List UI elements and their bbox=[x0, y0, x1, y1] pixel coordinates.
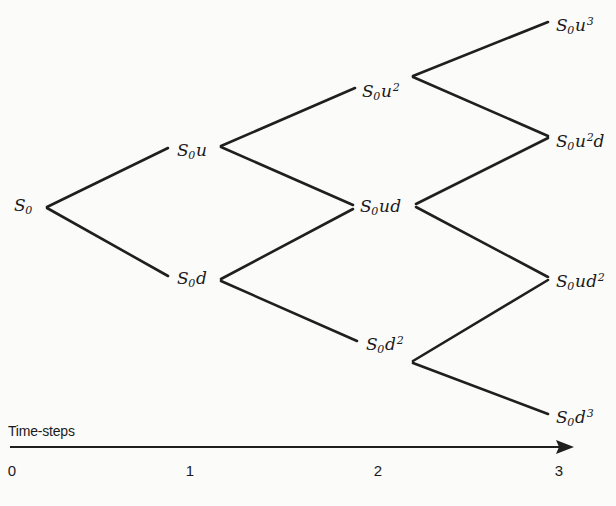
tree-node-label-n0: S0 bbox=[14, 197, 33, 214]
tree-node-label-n3ddd: S0d3 bbox=[556, 409, 593, 426]
tree-edge-n2uu-to-n3uuu bbox=[413, 22, 548, 76]
axis-tick-label-2: 2 bbox=[366, 462, 390, 479]
tree-edge-n1d-to-n2ud bbox=[221, 209, 353, 279]
tree-node-label-n2dd: S0d2 bbox=[366, 336, 403, 353]
tree-node-label-n1u: S0u bbox=[177, 142, 207, 159]
tree-edge-n2ud-to-n3uud bbox=[416, 138, 548, 204]
tree-edge-n1u-to-n2uu bbox=[221, 88, 355, 146]
time-axis-group bbox=[10, 440, 574, 454]
tree-node-label-n3udd: S0ud2 bbox=[556, 273, 605, 290]
tree-edge-n0-to-n1u bbox=[47, 148, 168, 207]
tree-edge-group bbox=[47, 22, 548, 414]
axis-tick-label-3: 3 bbox=[547, 462, 571, 479]
tree-edge-n2ud-to-n3udd bbox=[416, 207, 548, 277]
tree-node-label-n1d: S0d bbox=[177, 270, 207, 287]
tree-node-label-n2uu: S0u2 bbox=[362, 83, 399, 100]
tree-edge-n1d-to-n2dd bbox=[221, 281, 357, 341]
axis-tick-label-1: 1 bbox=[178, 462, 202, 479]
tree-node-label-n2ud: S0ud bbox=[360, 198, 401, 215]
binomial-tree-figure: S0S0uS0dS0u2S0udS0d2S0u3S0u2dS0ud2S0d3 T… bbox=[0, 0, 616, 506]
tree-node-label-n3uud: S0u2d bbox=[556, 133, 605, 150]
tree-edge-n2uu-to-n3uud bbox=[413, 77, 548, 136]
tree-edge-n2dd-to-n3udd bbox=[413, 280, 548, 361]
tree-edge-n1u-to-n2ud bbox=[221, 147, 353, 205]
axis-tick-label-0: 0 bbox=[0, 462, 24, 479]
tree-node-label-n3uuu: S0u3 bbox=[556, 17, 593, 34]
tree-edge-n2dd-to-n3ddd bbox=[413, 363, 548, 414]
tree-edge-n0-to-n1d bbox=[47, 208, 168, 276]
axis-title-time-steps: Time-steps bbox=[8, 423, 75, 439]
tree-edges-and-axis bbox=[0, 0, 616, 506]
